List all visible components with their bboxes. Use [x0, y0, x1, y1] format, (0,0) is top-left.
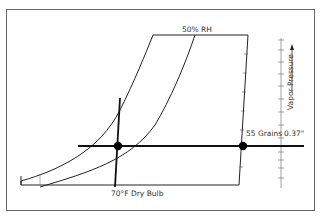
state-point-dot — [114, 142, 122, 150]
right-boundary — [239, 35, 248, 185]
rh-label: 50% RH — [182, 26, 212, 34]
grains-label: 55 Grains — [246, 130, 282, 138]
diagram-canvas: 50% RH 70°F Dry Bulb 55 Grains 0.37" Vap… — [0, 0, 321, 220]
vapor-arrow-head-icon — [290, 44, 294, 50]
grains-point-dot — [239, 142, 247, 150]
vapor-value-label: 0.37" — [284, 130, 304, 138]
saturation-curve — [21, 35, 153, 181]
psychrometric-chart-svg — [0, 0, 321, 220]
figure-border — [7, 10, 315, 211]
vapor-pressure-axis-label: Vapor Pressure — [287, 54, 295, 110]
dry-bulb-label: 70°F Dry Bulb — [111, 190, 163, 198]
